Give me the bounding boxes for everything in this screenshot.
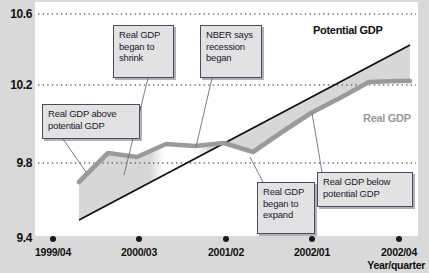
x-tick-2000-03: 2000/03 <box>121 246 157 258</box>
x-tick-dot-2002-04 <box>396 236 402 242</box>
y-tick-10-2: 10.2 <box>0 78 32 92</box>
callout-below-line2: potential GDP <box>323 188 407 200</box>
callout-shrink-line1: Real GDP <box>119 29 168 41</box>
callout-nber-line1: NBER says <box>206 29 256 41</box>
x-tick-dot-2001-02 <box>223 236 229 242</box>
callout-expand-line1: Real GDP <box>263 186 309 198</box>
y-tick-9-4: 9.4 <box>0 231 32 245</box>
y-tick-10-6: 10.6 <box>0 7 32 21</box>
callout-shrink-line3: shrink <box>119 52 168 64</box>
callout-nber-line2: recession <box>206 41 256 53</box>
series-label-real-gdp: Real GDP <box>363 112 411 124</box>
x-tick-2002-04: 2002/04 <box>381 246 417 258</box>
callout-nber-line3: began <box>206 52 256 64</box>
series-label-potential-gdp: Potential GDP <box>313 24 382 36</box>
x-tick-dot-2000-03 <box>136 236 142 242</box>
callout-above-line1: Real GDP above <box>48 108 134 120</box>
x-tick-2002-01: 2002/01 <box>294 246 330 258</box>
callout-real-gdp-began-to-expand: Real GDP began to expand <box>257 182 315 234</box>
x-tick-dot-1999-04 <box>50 236 56 242</box>
x-tick-2001-02: 2001/02 <box>208 246 244 258</box>
callout-real-gdp-below-potential: Real GDP below potential GDP <box>317 172 413 207</box>
callout-expand-line3: expand <box>263 209 309 221</box>
callout-above-line2: potential GDP <box>48 120 134 132</box>
callout-real-gdp-above-potential: Real GDP above potential GDP <box>42 104 140 139</box>
callout-real-gdp-began-to-shrink: Real GDP began to shrink <box>113 25 174 78</box>
callout-shrink-line2: began to <box>119 41 168 53</box>
callout-expand-line2: began to <box>263 198 309 210</box>
y-tick-9-8: 9.8 <box>0 156 32 170</box>
x-tick-dot-2002-01 <box>309 236 315 242</box>
x-tick-1999-04: 1999/04 <box>35 246 71 258</box>
x-axis-caption: Year/quarter <box>367 259 425 271</box>
chart-figure: 10.6 10.2 9.8 9.4 1999/04 2000/03 2001/0… <box>0 0 429 273</box>
callout-nber-recession-began: NBER says recession began <box>200 25 262 78</box>
callout-below-line1: Real GDP below <box>323 176 407 188</box>
